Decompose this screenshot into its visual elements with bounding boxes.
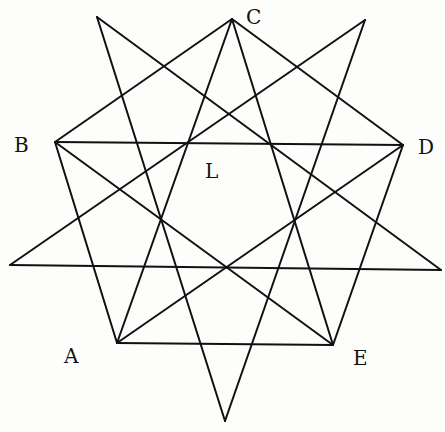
label-l: L [205, 159, 218, 183]
pentagon-edge-B-C [55, 19, 232, 142]
pentagon-edge-A-B [55, 142, 117, 343]
pentagon-diagonal-B-D [55, 142, 403, 145]
pentagon-pentagram-diagram: C B D L A E [0, 0, 445, 432]
label-a: A [63, 344, 79, 368]
pentagon-edge-E-A [117, 343, 333, 345]
star-edge-bottom-top_left [97, 17, 225, 421]
pentagon-edge-D-E [333, 145, 403, 345]
label-d: D [418, 135, 434, 159]
pentagon-diagonal-C-E [232, 19, 333, 345]
star-edge-top_right-bottom [225, 20, 365, 421]
label-c: C [246, 5, 261, 29]
pentagon-diagonal-B-E [55, 142, 333, 345]
pentagon-edge-C-D [232, 19, 403, 145]
label-e: E [353, 346, 368, 370]
pentagon-diagonal-A-D [117, 145, 403, 343]
label-b: B [14, 133, 29, 157]
